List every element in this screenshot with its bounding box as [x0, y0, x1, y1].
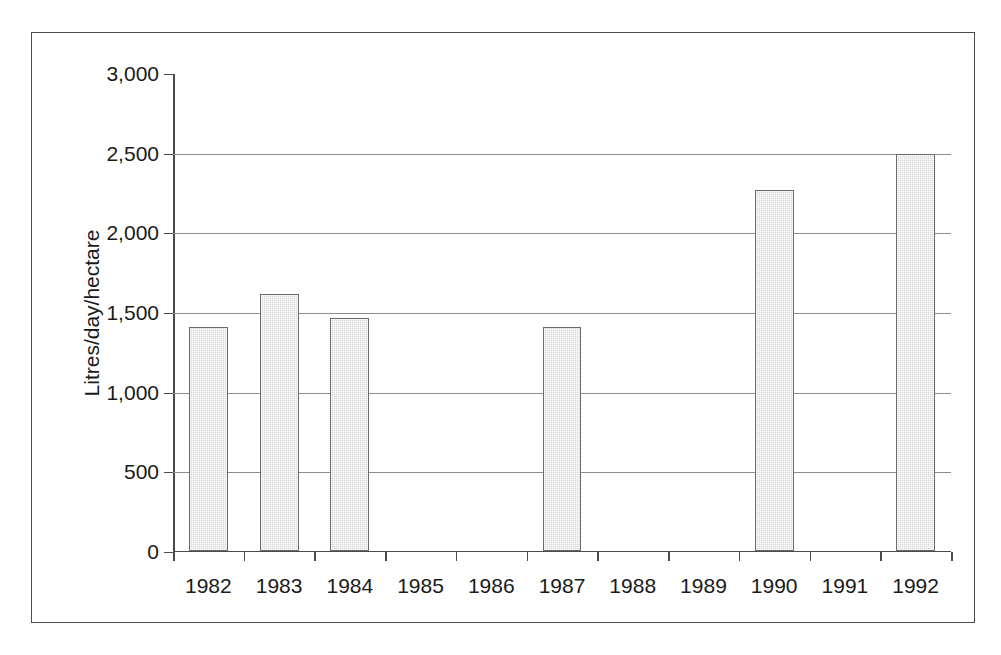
y-axis-title-label: Litres/day/hectare [80, 230, 104, 397]
x-axis-label-1990: 1990 [751, 574, 798, 598]
x-axis-tick [527, 552, 529, 561]
y-axis-tick [164, 233, 173, 234]
x-axis-tick [951, 552, 953, 561]
y-axis-tick-label: 1,500 [106, 301, 159, 325]
gridline [173, 154, 951, 155]
bar-1990 [755, 190, 794, 550]
bar-1984 [330, 318, 369, 551]
y-axis-tick [164, 313, 173, 314]
plot-area: 05001,0001,5002,0002,5003,000 1982198319… [173, 74, 951, 552]
x-axis-tick [880, 552, 882, 561]
y-axis-tick [164, 393, 173, 394]
bar-1982 [189, 327, 228, 550]
x-axis-tick [244, 552, 246, 561]
y-axis-tick-label: 2,500 [106, 142, 159, 166]
x-axis-tick [739, 552, 741, 561]
bar-1992 [896, 154, 935, 551]
x-axis-tick [173, 552, 175, 561]
x-axis-label-1985: 1985 [397, 574, 444, 598]
x-axis-tick [810, 552, 812, 561]
y-axis-tick [164, 74, 173, 75]
x-axis-label-1987: 1987 [539, 574, 586, 598]
y-axis-tick-label: 500 [124, 460, 159, 484]
y-axis-tick [164, 472, 173, 473]
bar-1983 [260, 294, 299, 551]
x-axis-tick [668, 552, 670, 561]
chart-figure-frame: Litres/day/hectare 05001,0001,5002,0002,… [31, 32, 975, 623]
y-axis-tick [164, 552, 173, 553]
y-axis-tick-label: 2,000 [106, 221, 159, 245]
x-axis-tick [314, 552, 316, 561]
y-axis-title: Litres/day/hectare [78, 74, 106, 552]
x-axis-tick [597, 552, 599, 561]
x-axis-tick [456, 552, 458, 561]
x-axis-label-1988: 1988 [609, 574, 656, 598]
x-axis-label-1984: 1984 [326, 574, 373, 598]
x-axis-label-1982: 1982 [185, 574, 232, 598]
x-axis-label-1991: 1991 [822, 574, 869, 598]
y-axis-tick [164, 154, 173, 155]
gridline [173, 233, 951, 234]
x-axis-tick [385, 552, 387, 561]
y-axis-tick-label: 3,000 [106, 62, 159, 86]
x-axis-label-1989: 1989 [680, 574, 727, 598]
y-axis-tick-label: 1,000 [106, 381, 159, 405]
y-axis-tick-label: 0 [147, 540, 159, 564]
bar-1987 [543, 327, 582, 550]
x-axis-label-1983: 1983 [256, 574, 303, 598]
x-axis-label-1986: 1986 [468, 574, 515, 598]
x-axis-label-1992: 1992 [892, 574, 939, 598]
x-axis-line [173, 551, 951, 553]
